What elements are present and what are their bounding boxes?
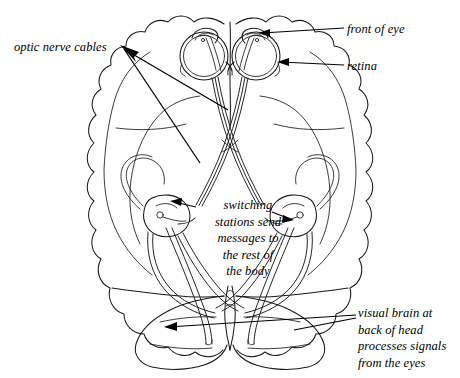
leader-lines xyxy=(120,28,356,331)
visual-pathway-diagram: optic nerve cables front of eye retina s… xyxy=(0,0,460,378)
leader-front-of-eye xyxy=(262,28,344,33)
arrowhead-visual-brain-upper xyxy=(164,322,177,331)
leader-retina xyxy=(281,62,344,65)
label-retina: retina xyxy=(347,58,427,75)
label-visual-brain: visual brain at back of head processes s… xyxy=(358,305,460,371)
leader-visual-brain-lower xyxy=(294,318,356,330)
label-optic-nerve-cables: optic nerve cables xyxy=(14,39,138,56)
label-switching-stations: switching stations send messages to the … xyxy=(196,197,300,280)
leader-optic-nerve-cables-lower xyxy=(124,49,200,163)
left-eyeball xyxy=(180,28,232,80)
left-switching-station xyxy=(121,155,195,237)
label-front-of-eye: front of eye xyxy=(347,21,453,38)
right-eyeball xyxy=(228,28,280,80)
